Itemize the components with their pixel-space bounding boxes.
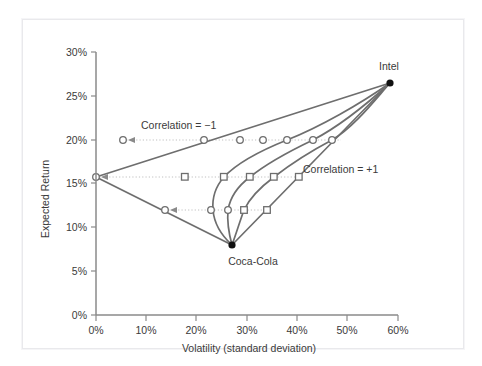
markers-row-138pct	[93, 174, 302, 181]
marker-open-circle	[237, 137, 244, 144]
marker-open-circle	[260, 137, 267, 144]
markers-row-18pct	[120, 137, 336, 144]
x-tick-label: 20%	[185, 324, 206, 336]
y-tick-label: 10%	[66, 221, 87, 233]
x-tick-label: 60%	[387, 324, 408, 336]
marker-open-circle	[201, 137, 208, 144]
x-axis-tick-labels: 0% 10% 20% 30% 40% 50% 60%	[88, 324, 408, 336]
y-tick-label: 25%	[66, 90, 87, 102]
y-tick-label: 20%	[66, 134, 87, 146]
markers-row-10pct	[162, 207, 271, 214]
x-tick-label: 50%	[336, 324, 357, 336]
marker-open-circle	[284, 137, 291, 144]
y-tick-label: 30%	[66, 46, 87, 58]
marker-open-square	[296, 174, 303, 181]
axes	[96, 52, 398, 315]
x-axis-title: Volatility (standard deviation)	[182, 342, 316, 354]
marker-open-square	[182, 174, 189, 181]
marker-open-circle	[208, 207, 215, 214]
label-coca-cola: Coca-Cola	[228, 255, 278, 267]
label-intel: Intel	[379, 60, 399, 72]
chart-figure: 30% 25% 20% 15% 10% 5% 0% 0% 10% 20% 30%…	[0, 0, 482, 366]
marker-open-circle	[329, 137, 336, 144]
marker-open-square	[221, 174, 228, 181]
annotation-correlation-positive-one: Correlation = +1	[303, 163, 378, 175]
annotation-correlation-negative-one: Correlation = −1	[141, 119, 216, 131]
arrowhead-row-18pct	[128, 137, 135, 143]
marker-open-circle	[120, 137, 127, 144]
marker-open-square	[271, 174, 278, 181]
y-axis-title: Expected Return	[39, 160, 51, 238]
marker-open-circle	[162, 207, 169, 214]
x-axis-ticks	[96, 315, 398, 321]
reference-arrowheads	[101, 137, 177, 213]
marker-open-circle	[310, 137, 317, 144]
y-tick-label: 0%	[72, 309, 87, 321]
marker-open-square	[241, 207, 248, 214]
x-tick-label: 40%	[286, 324, 307, 336]
arrowhead-row-10pct	[170, 207, 177, 213]
marker-open-square	[247, 174, 254, 181]
dotted-reference-lines	[96, 140, 341, 210]
asset-point-intel	[386, 79, 393, 86]
asset-point-coca-cola	[228, 241, 235, 248]
x-tick-label: 10%	[135, 324, 156, 336]
y-tick-label: 5%	[72, 265, 87, 277]
x-tick-label: 30%	[236, 324, 257, 336]
x-tick-label: 0%	[88, 324, 103, 336]
marker-open-circle	[225, 207, 232, 214]
portfolio-frontier-chart: 30% 25% 20% 15% 10% 5% 0% 0% 10% 20% 30%…	[0, 0, 482, 366]
y-tick-label: 15%	[66, 177, 87, 189]
y-axis-tick-labels: 30% 25% 20% 15% 10% 5% 0%	[66, 46, 87, 321]
marker-open-square	[264, 207, 271, 214]
